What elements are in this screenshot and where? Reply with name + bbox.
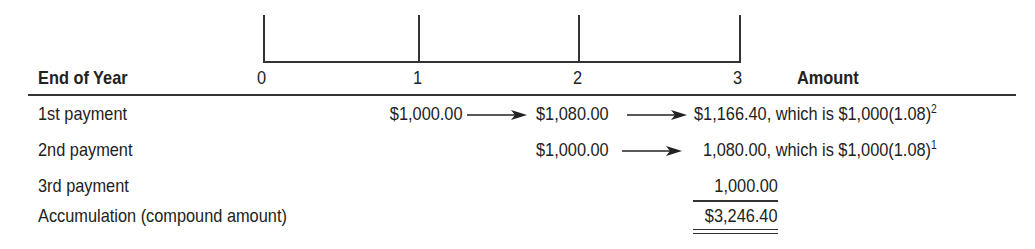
subtotal-rule — [693, 200, 778, 202]
arrow-icon — [622, 145, 682, 157]
arrow-icon — [467, 109, 527, 121]
row1-year1-value: $1,000.00 — [390, 103, 463, 125]
row1-exponent: 2 — [931, 102, 937, 116]
row-label-1st-payment: 1st payment — [38, 103, 127, 125]
row2-year2-value: $1,000.00 — [536, 139, 609, 161]
year-label-2: 2 — [573, 67, 582, 89]
row1-year3-value: $1,166.40, which is $1,000(1.08)2 — [694, 103, 937, 125]
row3-year3-value: 1,000.00 — [714, 175, 778, 197]
row-label-3rd-payment: 3rd payment — [38, 175, 129, 197]
year-label-3: 3 — [733, 67, 742, 89]
row2-note: , which is $1,000(1.08) — [767, 139, 931, 160]
arrow-icon — [627, 109, 687, 121]
year-label-0: 0 — [257, 67, 266, 89]
row2-amount: 1,080.00 — [703, 139, 767, 160]
timeline-tick-1 — [418, 15, 420, 62]
row2-exponent: 1 — [931, 138, 937, 152]
total-double-rule-bottom — [693, 233, 778, 234]
row-label-accumulation: Accumulation (compound amount) — [38, 205, 287, 227]
timeline-tick-2 — [578, 15, 580, 62]
header-rule — [28, 94, 1016, 96]
timeline-tick-3 — [739, 15, 741, 62]
row-label-2nd-payment: 2nd payment — [38, 139, 132, 161]
year-label-1: 1 — [413, 67, 422, 89]
row1-amount: $1,166.40 — [694, 103, 767, 124]
timeline-tick-0 — [263, 15, 265, 62]
total-double-rule-top — [693, 229, 778, 230]
row1-year2-value: $1,080.00 — [536, 103, 609, 125]
row1-note: , which is $1,000(1.08) — [767, 103, 931, 124]
total-amount: $3,246.40 — [705, 205, 778, 227]
header-end-of-year: End of Year — [38, 67, 128, 89]
header-amount: Amount — [797, 67, 859, 89]
row2-year3-value: 1,080.00, which is $1,000(1.08)1 — [703, 139, 937, 161]
timeline-axis — [263, 61, 741, 63]
